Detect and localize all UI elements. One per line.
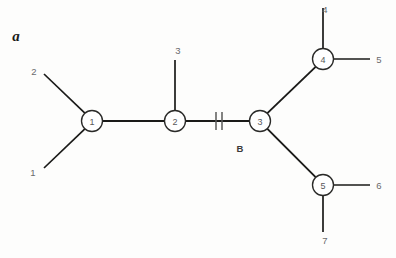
leaf-label-4: 4	[322, 4, 327, 15]
panel-label-a: a	[12, 28, 20, 44]
figure-panel-a: a B 1	[0, 0, 396, 258]
branch-label-b: B	[237, 143, 244, 154]
edge-node1-leaf1	[44, 129, 85, 168]
node-2[interactable]: 2	[165, 111, 186, 132]
node-label-1: 1	[89, 117, 94, 127]
node-5[interactable]: 5	[313, 175, 334, 196]
tree-diagram-canvas: a B 1	[0, 0, 396, 258]
node-3[interactable]: 3	[250, 111, 271, 132]
edge-node3-node5	[267, 129, 315, 177]
leaf-label-2: 2	[31, 66, 36, 77]
node-1[interactable]: 1	[82, 111, 103, 132]
leaf-label-3: 3	[175, 45, 180, 56]
internal-edge-group	[103, 67, 316, 177]
leaf-label-6: 6	[376, 180, 381, 191]
node-label-4: 4	[320, 55, 325, 65]
node-label-5: 5	[320, 181, 325, 191]
edge-node3-node4	[267, 67, 315, 113]
leaf-label-7: 7	[322, 235, 327, 246]
leaf-label-1: 1	[30, 167, 35, 178]
node-group: 1 2 3 4 5	[82, 49, 334, 196]
node-label-3: 3	[257, 117, 262, 127]
edge-node1-leaf2	[44, 74, 85, 113]
node-label-2: 2	[172, 117, 177, 127]
branch-b-marker: B	[216, 112, 244, 154]
leaf-label-5: 5	[376, 54, 381, 65]
node-4[interactable]: 4	[313, 49, 334, 70]
